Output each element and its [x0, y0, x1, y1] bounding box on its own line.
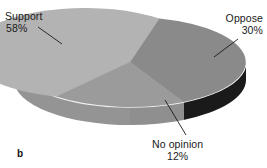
slice-label-no-opinion-value: 12%	[152, 150, 203, 162]
slice-label-support-value: 58%	[5, 22, 42, 34]
panel-letter: b	[17, 148, 23, 159]
slice-label-no-opinion-name: No opinion	[152, 138, 203, 150]
slice-label-support: Support 58%	[5, 10, 42, 34]
slice-label-oppose: Oppose 30%	[226, 12, 263, 36]
pie-chart-figure: Support 58% Oppose 30% No opinion 12% b	[0, 0, 267, 168]
slice-label-no-opinion: No opinion 12%	[152, 138, 203, 162]
slice-label-oppose-name: Oppose	[226, 12, 263, 24]
slice-label-oppose-value: 30%	[226, 24, 263, 36]
slice-label-support-name: Support	[5, 10, 42, 22]
